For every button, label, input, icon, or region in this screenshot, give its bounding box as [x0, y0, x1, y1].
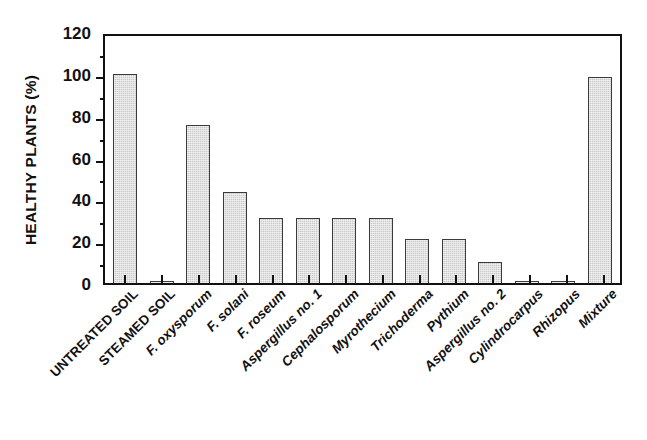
y-tick-label: 20 [39, 233, 91, 253]
y-tick-label: 120 [39, 24, 91, 44]
y-tick-major [96, 202, 105, 204]
bar [186, 125, 210, 283]
bar [551, 281, 575, 284]
bar-slot [472, 36, 509, 283]
x-tick-mark [419, 275, 421, 283]
bar [478, 262, 502, 283]
x-tick-mark [492, 275, 494, 283]
bar-series [105, 36, 620, 283]
bar-slot [217, 36, 254, 283]
bar [259, 218, 283, 283]
y-tick-label: 40 [39, 191, 91, 211]
bar-slot [582, 36, 619, 283]
bar [332, 218, 356, 283]
y-tick-major [96, 244, 105, 246]
x-tick-mark [566, 275, 568, 283]
bar [369, 218, 393, 283]
x-tick-mark [308, 275, 310, 283]
bar [296, 218, 320, 283]
bar [405, 239, 429, 283]
bar-slot [144, 36, 181, 283]
bar [223, 192, 247, 283]
y-tick-label: 80 [39, 108, 91, 128]
bar [113, 74, 137, 283]
x-tick-mark [603, 275, 605, 283]
x-axis-tick-labels: UNTREATED SOILSTEAMED SOILF. oxysporumF.… [103, 287, 622, 437]
x-tick-mark [455, 275, 457, 283]
y-tick-major [96, 119, 105, 121]
y-tick-minor [100, 265, 105, 267]
bar-slot [436, 36, 473, 283]
y-tick-minor [100, 181, 105, 183]
x-tick-mark [382, 275, 384, 283]
bar-slot [326, 36, 363, 283]
y-tick-label: 100 [39, 66, 91, 86]
bar-chart-figure: HEALTHY PLANTS (%) 020406080100120 UNTRE… [0, 0, 647, 440]
x-tick-mark [235, 275, 237, 283]
y-tick-minor [100, 140, 105, 142]
y-tick-minor [100, 223, 105, 225]
bar-slot [363, 36, 400, 283]
bar-slot [180, 36, 217, 283]
y-tick-minor [100, 98, 105, 100]
y-tick-label: 0 [39, 275, 91, 295]
bar-slot [545, 36, 582, 283]
x-tick-label: Mixture [576, 287, 619, 330]
bar [588, 77, 612, 283]
bar [515, 281, 539, 284]
y-tick-label: 60 [39, 150, 91, 170]
x-tick-mark [529, 275, 531, 283]
y-tick-minor [100, 56, 105, 58]
y-tick-major [96, 77, 105, 79]
bar-slot [399, 36, 436, 283]
bar-slot [290, 36, 327, 283]
bar-slot [509, 36, 546, 283]
x-tick-mark [161, 275, 163, 283]
x-tick-mark [198, 275, 200, 283]
bar-slot [253, 36, 290, 283]
bar [442, 239, 466, 283]
y-tick-major [96, 161, 105, 163]
x-tick-mark [124, 275, 126, 283]
bar-slot [107, 36, 144, 283]
plot-area [103, 34, 622, 285]
x-tick-mark [272, 275, 274, 283]
x-tick-mark [345, 275, 347, 283]
